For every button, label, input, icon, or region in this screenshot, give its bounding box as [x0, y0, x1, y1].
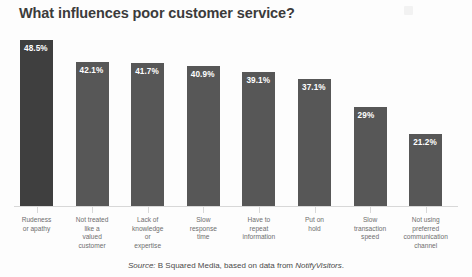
bar-value-label: 42.1%: [80, 66, 104, 75]
x-axis-tick: [315, 207, 316, 213]
bar[interactable]: 21.2%: [409, 134, 442, 207]
bar-group: 29%: [354, 0, 387, 206]
x-axis-category-label: Rudenessor apathy: [10, 216, 64, 233]
bar-value-label: 21.2%: [413, 138, 437, 147]
bar[interactable]: 29%: [354, 107, 387, 206]
bar-value-label: 41.7%: [135, 67, 159, 76]
x-axis-line: [14, 206, 458, 207]
bar-value-label: 48.5%: [24, 44, 48, 53]
category-label-line: response: [176, 225, 230, 234]
bar[interactable]: 40.9%: [187, 66, 220, 206]
bar-group: 37.1%: [298, 0, 331, 206]
category-label-line: customer: [65, 242, 119, 251]
bar[interactable]: 42.1%: [76, 62, 109, 206]
category-label-line: Lack of: [121, 216, 175, 225]
x-axis-tick: [370, 207, 371, 213]
bar[interactable]: 37.1%: [298, 79, 331, 206]
x-axis-category-label: Not usingpreferredcommunicationchannel: [399, 216, 453, 250]
category-label-line: or apathy: [10, 225, 64, 234]
source-body: B Squared Media, based on data from: [156, 261, 296, 270]
bar[interactable]: 48.5%: [20, 40, 53, 206]
source-attribution: NotifyVisitors: [295, 261, 342, 270]
bar-group: 40.9%: [187, 0, 220, 206]
category-label-line: Have to: [232, 216, 286, 225]
category-label-line: or: [121, 233, 175, 242]
source-note: Source: B Squared Media, based on data f…: [128, 261, 344, 270]
source-prefix: Source:: [128, 261, 156, 270]
bar-group: 21.2%: [409, 0, 442, 206]
x-axis-category-label: Have torepeatinformation: [232, 216, 286, 242]
category-label-line: hold: [288, 225, 342, 234]
category-label-line: expertise: [121, 242, 175, 251]
bar[interactable]: 41.7%: [131, 63, 164, 206]
bar-value-label: 39.1%: [246, 76, 270, 85]
category-label-line: Not treated: [65, 216, 119, 225]
category-label-line: like a: [65, 225, 119, 234]
category-label-line: Not using: [399, 216, 453, 225]
bar-value-label: 29%: [358, 111, 375, 120]
x-axis-tick: [259, 207, 260, 213]
category-label-line: Put on: [288, 216, 342, 225]
x-axis-tick: [92, 207, 93, 213]
category-label-line: Rudeness: [10, 216, 64, 225]
category-label-line: communication: [399, 233, 453, 242]
bar[interactable]: 39.1%: [242, 72, 275, 206]
bar-group: 41.7%: [131, 0, 164, 206]
category-label-line: speed: [343, 233, 397, 242]
x-axis-tick: [37, 207, 38, 213]
category-label-line: transaction: [343, 225, 397, 234]
category-label-line: knowledge: [121, 225, 175, 234]
x-axis-category-label: Slowresponsetime: [176, 216, 230, 242]
x-axis-tick: [203, 207, 204, 213]
category-label-line: Slow: [176, 216, 230, 225]
x-axis-tick: [426, 207, 427, 213]
category-label-line: preferred: [399, 225, 453, 234]
chart-container: What influences poor customer service? 4…: [0, 0, 472, 277]
plot-area: 48.5%42.1%41.7%40.9%39.1%37.1%29%21.2%: [0, 0, 472, 206]
x-axis-category-label: Slowtransactionspeed: [343, 216, 397, 242]
source-suffix: .: [342, 261, 344, 270]
bar-value-label: 40.9%: [191, 70, 215, 79]
x-axis-category-label: Lack ofknowledgeorexpertise: [121, 216, 175, 250]
category-label-line: channel: [399, 242, 453, 251]
x-axis-category-label: Put onhold: [288, 216, 342, 233]
category-label-line: Slow: [343, 216, 397, 225]
bar-value-label: 37.1%: [302, 83, 326, 92]
category-label-line: repeat: [232, 225, 286, 234]
category-label-line: time: [176, 233, 230, 242]
x-axis-tick: [148, 207, 149, 213]
category-label-line: valued: [65, 233, 119, 242]
bar-group: 39.1%: [242, 0, 275, 206]
bar-group: 48.5%: [20, 0, 53, 206]
category-label-line: information: [232, 233, 286, 242]
bar-group: 42.1%: [76, 0, 109, 206]
x-axis-category-label: Not treatedlike avaluedcustomer: [65, 216, 119, 250]
